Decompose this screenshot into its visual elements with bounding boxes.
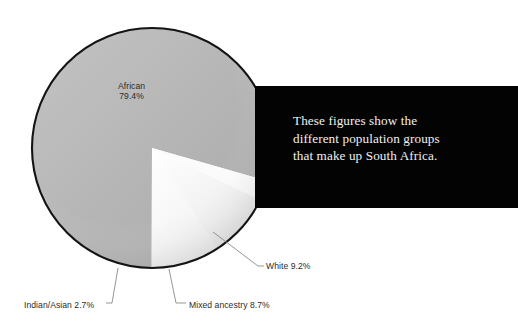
pie-label-mixed-ancestry: Mixed ancestry 8.7% [189,300,270,310]
callout-text: These figures show the different populat… [293,112,508,165]
leader-line-mixed-ancestry [169,269,186,303]
pie-label-indian-asian: Indian/Asian 2.7% [24,300,94,310]
leader-line-indian-asian [106,268,118,303]
pie-label-african: African 79.4% [118,81,145,102]
pie-shading-overlay [32,28,272,268]
chart-canvas: These figures show the different populat… [0,0,518,334]
pie-label-white: White 9.2% [266,261,310,271]
